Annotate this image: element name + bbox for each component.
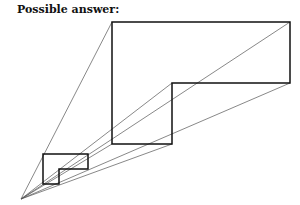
large-l-shape [112,22,290,144]
enlargement-diagram [0,0,300,205]
projection-rays [21,22,290,199]
